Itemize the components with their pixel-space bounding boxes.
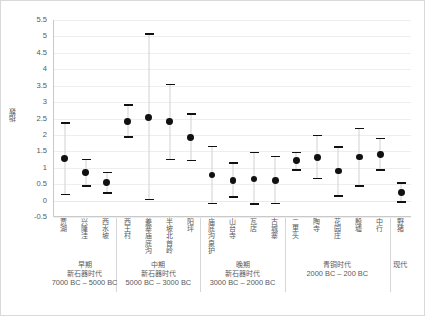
group-separator — [285, 218, 286, 260]
period-label-line: 中期 — [125, 260, 191, 269]
y-axis-tick: 3.5 — [36, 82, 47, 90]
data-point-marker[interactable] — [61, 155, 68, 162]
y-axis-tick-labels: 5.554.543.532.521.510.50-0.5 — [0, 20, 50, 217]
error-bar-cap-high — [271, 156, 280, 158]
error-bar-cap-low — [376, 169, 385, 171]
data-point-marker[interactable] — [230, 177, 237, 184]
x-axis-label: 半坡北首岭 — [165, 218, 173, 254]
gridline — [54, 201, 411, 202]
gridline — [54, 135, 411, 136]
gridline — [54, 151, 411, 152]
period-label-line: 晚期 — [210, 260, 276, 269]
error-bar-cap-high — [82, 159, 91, 161]
x-axis-label: 西水坡 — [102, 218, 110, 240]
error-bar-cap-high — [208, 146, 217, 148]
data-point-marker[interactable] — [251, 176, 258, 183]
group-separator — [200, 258, 201, 292]
data-point-marker[interactable] — [209, 172, 216, 179]
chart-root: 指数 5.554.543.532.521.510.50-0.5 贾湖兴隆洼西水坡… — [0, 0, 425, 316]
x-axis-label: 贾湖 — [60, 218, 68, 232]
y-axis-tick: 4.5 — [36, 49, 47, 57]
error-bar-cap-high — [166, 84, 175, 86]
y-axis-tick: 3 — [43, 98, 47, 106]
data-point-marker[interactable] — [398, 189, 405, 196]
x-axis-label: 兴隆洼 — [81, 218, 89, 240]
data-point-marker[interactable] — [314, 154, 321, 161]
period-label-line: 现代 — [393, 260, 407, 269]
error-bar-cap-high — [313, 135, 322, 137]
error-bar-cap-high — [187, 113, 196, 115]
data-point-marker[interactable] — [272, 177, 279, 184]
period-label-line: 7000 BC – 5000 BC — [52, 278, 118, 287]
error-bar-cap-low — [187, 160, 196, 162]
error-bar-cap-low — [250, 203, 259, 205]
data-point-marker[interactable] — [145, 114, 152, 121]
error-bar-cap-low — [355, 185, 364, 187]
group-separator — [285, 258, 286, 292]
gridline — [54, 36, 411, 37]
x-axis-label: 古城寨 — [270, 218, 278, 240]
period-label-line: 5000 BC – 3000 BC — [125, 278, 191, 287]
error-bar-cap-high — [397, 182, 406, 184]
group-separator — [116, 218, 117, 260]
gridline — [54, 102, 411, 103]
period-label: 中期新石器时代5000 BC – 3000 BC — [125, 260, 191, 288]
period-label-line: 3000 BC – 2000 BC — [210, 278, 276, 287]
error-bar-cap-high — [292, 152, 301, 154]
data-point-marker[interactable] — [124, 118, 131, 125]
y-axis-tick: 2.5 — [36, 115, 47, 123]
error-bar-cap-low — [292, 169, 301, 171]
error-bar-cap-low — [124, 136, 133, 138]
period-label: 青铜时代2000 BC – 200 BC — [306, 260, 368, 278]
gridline — [54, 119, 411, 120]
gridline — [54, 20, 411, 21]
error-bar-cap-low — [334, 195, 343, 197]
y-axis-tick: 5 — [43, 33, 47, 41]
error-bar-cap-low — [313, 178, 322, 180]
x-axis-label: 陶寺 — [312, 218, 320, 232]
y-axis-tick: 1.5 — [36, 148, 47, 156]
error-bar-cap-high — [229, 162, 238, 164]
error-bar-cap-low — [397, 201, 406, 203]
period-label-line: 新石器时代 — [210, 269, 276, 278]
plot-area — [53, 20, 411, 217]
x-axis-label: 姜寨庙底沟 — [144, 218, 152, 254]
x-axis-label: 庙底沟泉护 — [207, 218, 215, 254]
error-bar-cap-high — [355, 128, 364, 130]
error-bar-cap-low — [82, 185, 91, 187]
data-point-marker[interactable] — [103, 179, 110, 186]
period-label-line: 早期 — [52, 260, 118, 269]
data-point-marker[interactable] — [377, 151, 384, 158]
group-separator — [390, 258, 391, 292]
y-axis-tick: 2 — [43, 131, 47, 139]
period-label-line: 青铜时代 — [306, 260, 368, 269]
error-bar-cap-low — [271, 203, 280, 205]
error-bar-cap-high — [376, 138, 385, 140]
data-point-marker[interactable] — [187, 134, 194, 141]
gridline — [54, 53, 411, 54]
x-axis-category-labels: 贾湖兴隆洼西水坡西王村姜寨庙底沟半坡北首岭阳坪庙底沟泉护山台寺瓦店古城寨二里头陶… — [53, 218, 411, 260]
x-axis-label: 中行 — [376, 218, 384, 232]
period-label-line: 新石器时代 — [125, 269, 191, 278]
x-axis-label: 二里头 — [291, 218, 299, 240]
x-axis-label: 殷墟 — [355, 218, 363, 232]
data-point-marker[interactable] — [335, 168, 342, 175]
error-bar-cap-low — [229, 196, 238, 198]
data-point-marker[interactable] — [356, 154, 363, 161]
period-group-band: 早期新石器时代7000 BC – 5000 BC中期新石器时代5000 BC –… — [53, 258, 411, 300]
y-axis-tick: 0 — [43, 197, 47, 205]
error-bar-cap-high — [250, 152, 259, 154]
y-axis-tick: 1 — [43, 164, 47, 172]
y-axis-tick: 5.5 — [36, 16, 47, 24]
error-bar-cap-low — [166, 159, 175, 161]
period-label: 早期新石器时代7000 BC – 5000 BC — [52, 260, 118, 288]
error-bar-cap-high — [103, 172, 112, 174]
period-label: 现代 — [393, 260, 407, 269]
data-point-marker[interactable] — [82, 169, 89, 176]
error-bar-cap-low — [145, 199, 154, 201]
y-axis-tick: 0.5 — [36, 180, 47, 188]
error-bar-cap-high — [145, 33, 154, 35]
data-point-marker[interactable] — [293, 157, 300, 164]
period-label-line: 2000 BC – 200 BC — [306, 269, 368, 278]
data-point-marker[interactable] — [166, 118, 173, 125]
